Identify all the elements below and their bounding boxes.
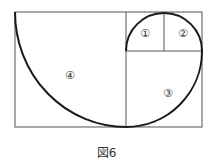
golden-spiral-diagram: ① ② ③ ④ [0, 0, 213, 167]
label-region-4: ④ [65, 69, 75, 82]
label-region-1: ① [140, 27, 150, 40]
spiral-curve [15, 12, 202, 127]
label-region-2: ② [178, 27, 188, 40]
figure-caption: 図6 [0, 143, 213, 160]
label-region-3: ③ [163, 87, 173, 100]
